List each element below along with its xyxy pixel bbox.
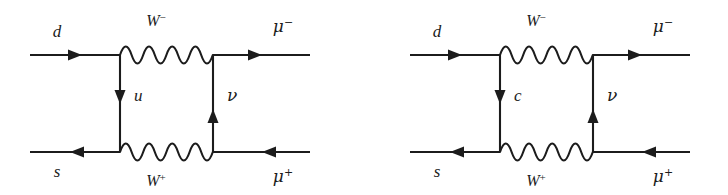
top-w-boson-wave-right [500, 47, 593, 64]
bottom-w-boson-wave-right [500, 144, 593, 161]
figure-root: d W− u ν μ− s W+ μ [0, 0, 728, 195]
incoming-top-arrowhead-left [68, 50, 82, 61]
feynman-diagram-right: d W− c ν μ− s W+ μ [364, 0, 728, 195]
incoming-bottom-arrowhead-left [70, 147, 84, 158]
incoming-top-arrowhead-right [448, 50, 462, 61]
incoming-top-label-left: d [53, 22, 62, 41]
outgoing-top-label-right: μ− [653, 16, 673, 36]
incoming-bottom-label-left: s [54, 162, 61, 181]
incoming-bottom-label-right: s [434, 162, 441, 181]
left-internal-arrowhead-right [495, 90, 506, 104]
outgoing-bottom-arrowhead-left [262, 147, 276, 158]
right-internal-arrowhead-left [208, 109, 219, 123]
outgoing-bottom-label-right: μ+ [653, 166, 673, 186]
top-w-boson-wave-left [120, 47, 213, 64]
outgoing-bottom-arrowhead-right [642, 147, 656, 158]
outgoing-top-arrowhead-right [628, 50, 642, 61]
outgoing-top-label-left: μ− [273, 16, 293, 36]
bottom-w-boson-label-left: W+ [146, 171, 166, 189]
outgoing-bottom-label-left: μ+ [273, 166, 293, 186]
right-internal-label-left: ν [227, 85, 237, 105]
right-internal-arrowhead-right [588, 109, 599, 123]
left-internal-label-right: c [514, 86, 522, 105]
feynman-diagram-left-canvas: d W− u ν μ− s W+ μ [0, 0, 364, 195]
incoming-bottom-arrowhead-right [450, 147, 464, 158]
top-w-boson-label-right: W− [526, 11, 546, 29]
left-internal-arrowhead-left [115, 90, 126, 104]
feynman-diagram-left: d W− u ν μ− s W+ μ [0, 0, 364, 195]
feynman-diagram-right-canvas: d W− c ν μ− s W+ μ [364, 0, 728, 195]
top-w-boson-label-left: W− [146, 11, 166, 29]
bottom-w-boson-label-right: W+ [526, 171, 546, 189]
incoming-top-label-right: d [433, 22, 442, 41]
right-internal-label-right: ν [607, 85, 617, 105]
bottom-w-boson-wave-left [120, 144, 213, 161]
left-internal-label-left: u [134, 86, 143, 105]
outgoing-top-arrowhead-left [248, 50, 262, 61]
